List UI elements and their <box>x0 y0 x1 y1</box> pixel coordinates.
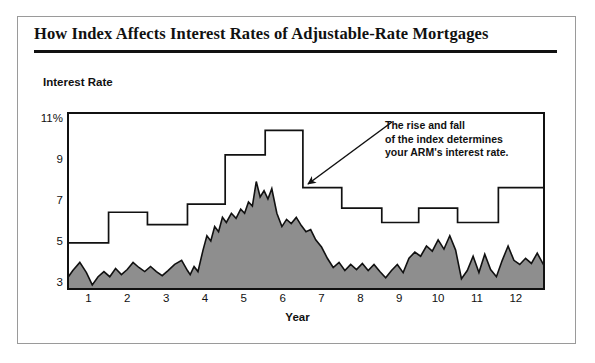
annotation-line-2: of the index determines <box>385 133 508 147</box>
annotation-callout: The rise and fall of the index determine… <box>385 119 508 160</box>
x-axis-tick-labels: 123456789101112 <box>67 292 545 310</box>
y-axis-title: Interest Rate <box>43 76 113 88</box>
title-underline-rule <box>34 50 557 53</box>
x-tick-label: 5 <box>241 292 247 304</box>
x-tick-label: 12 <box>509 292 522 304</box>
y-tick-label: 5 <box>57 235 63 247</box>
y-axis-tick-labels: 11%9753 <box>20 112 63 290</box>
page-title: How Index Affects Interest Rates of Adju… <box>34 24 559 44</box>
x-tick-label: 4 <box>202 292 208 304</box>
index-area-series <box>67 182 545 290</box>
x-tick-label: 10 <box>432 292 445 304</box>
x-tick-label: 11 <box>471 292 483 304</box>
x-tick-label: 3 <box>163 292 169 304</box>
y-tick-label: 7 <box>57 194 63 206</box>
annotation-line-3: your ARM's interest rate. <box>385 146 508 160</box>
y-tick-label: 3 <box>57 276 63 288</box>
x-tick-label: 8 <box>357 292 363 304</box>
figure-root: How Index Affects Interest Rates of Adju… <box>0 0 595 363</box>
x-tick-label: 6 <box>279 292 285 304</box>
x-tick-label: 7 <box>318 292 324 304</box>
y-tick-label: 11% <box>41 112 63 124</box>
x-tick-label: 2 <box>124 292 130 304</box>
x-axis-title: Year <box>0 311 595 323</box>
x-tick-label: 9 <box>396 292 402 304</box>
y-tick-label: 9 <box>57 153 63 165</box>
x-tick-label: 1 <box>85 292 91 304</box>
annotation-line-1: The rise and fall <box>385 119 508 133</box>
